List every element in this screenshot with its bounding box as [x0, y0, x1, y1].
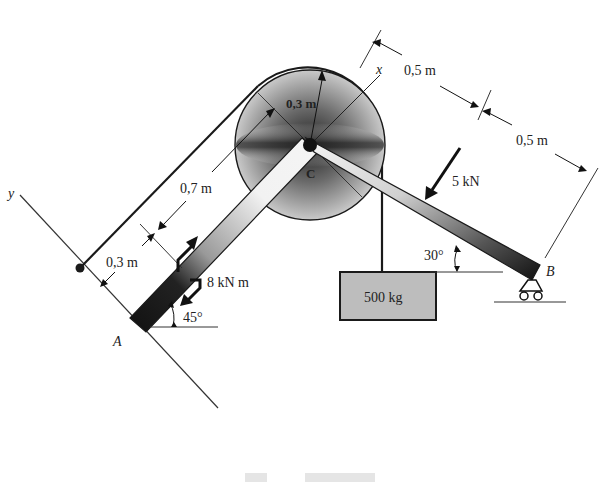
figure-caption-faded: [245, 473, 375, 482]
mass-label: 500 kg: [364, 290, 403, 305]
bar-ac: [130, 138, 318, 332]
mechanics-diagram: y x C 0,3 m 500 kg: [0, 0, 600, 482]
point-b-label: B: [546, 264, 555, 279]
moment-label: 8 kN m: [207, 275, 249, 290]
cable-anchor-point: [76, 264, 85, 273]
cb-dimensions: 0,5 m 0,5 m: [360, 30, 598, 258]
point-c-label: C: [306, 166, 315, 181]
y-axis-label: y: [6, 186, 15, 201]
cb-second-dimension-label: 0,5 m: [516, 133, 548, 148]
point-a-label: A: [112, 334, 122, 349]
force-label: 5 kN: [452, 174, 480, 189]
pulley-radius-label: 0,3 m: [286, 96, 317, 111]
angle-cb-label: 30°: [424, 248, 444, 263]
x-axis-label: x: [375, 62, 383, 77]
angle-ac-label: 45°: [183, 310, 203, 325]
roller-support-b: [494, 280, 566, 302]
cable-offset-label: 0,7 m: [180, 181, 212, 196]
mass-block: 500 kg: [340, 272, 436, 320]
moment-offset-label: 0,3 m: [106, 255, 138, 270]
force-5kn: 5 kN: [425, 148, 480, 200]
cb-first-dimension-label: 0,5 m: [404, 63, 436, 78]
